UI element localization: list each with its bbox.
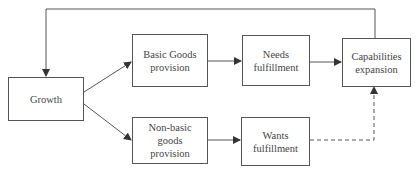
node-basic-goods-provision: Basic Goods provision: [132, 34, 208, 87]
node-label: Needs fulfillment: [254, 48, 299, 74]
feedback-arrow: [46, 9, 375, 76]
node-label: Basic Goods provision: [143, 48, 196, 74]
growth-to-basic-arrow: [84, 62, 131, 92]
node-growth: Growth: [8, 77, 84, 121]
node-label: Growth: [30, 93, 62, 106]
node-non-basic-goods-provision: Non-basic goods provision: [132, 117, 208, 164]
node-wants-fulfillment: Wants fulfillment: [241, 117, 310, 166]
node-label: Wants fulfillment: [253, 129, 298, 155]
node-capabilities-expansion: Capabilities expansion: [342, 38, 411, 87]
node-label: Non-basic goods provision: [148, 121, 191, 160]
wants-to-capabilities-dashed-arrow: [310, 87, 374, 140]
growth-to-nonbasic-arrow: [84, 104, 131, 140]
node-needs-fulfillment: Needs fulfillment: [242, 35, 310, 86]
node-label: Capabilities expansion: [351, 50, 401, 76]
